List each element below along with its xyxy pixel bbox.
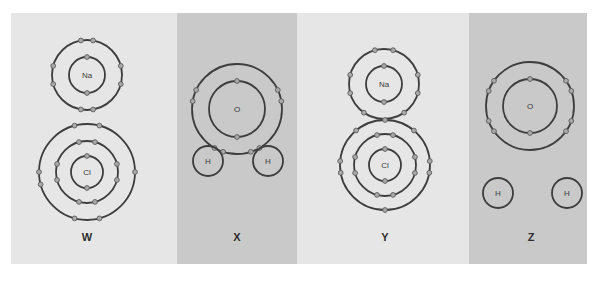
electron: [85, 186, 90, 191]
element-symbol: O: [234, 105, 240, 114]
panel-label-z: Z: [528, 231, 535, 243]
electron: [79, 38, 84, 43]
electron: [118, 64, 123, 69]
electron: [413, 171, 418, 176]
electron: [338, 159, 343, 164]
element-symbol: Cl: [381, 161, 389, 170]
electron: [93, 140, 98, 145]
electron: [373, 48, 378, 53]
panel-label-w: W: [82, 231, 93, 243]
electron: [569, 119, 574, 124]
element-symbol: Na: [379, 80, 390, 89]
electron: [486, 119, 491, 124]
electron: [391, 48, 396, 53]
electron: [72, 123, 77, 128]
electron: [133, 170, 138, 175]
electron: [412, 128, 417, 133]
panel-label-y: Y: [381, 231, 389, 243]
electron: [383, 208, 388, 213]
electron: [55, 178, 60, 183]
electron: [492, 78, 497, 83]
electron: [91, 107, 96, 112]
panel-label-x: X: [233, 231, 241, 243]
electron: [279, 99, 284, 104]
electron: [93, 200, 98, 205]
electron: [353, 171, 358, 176]
electron: [391, 193, 396, 198]
electron: [235, 135, 240, 140]
electron: [564, 129, 569, 134]
electron: [564, 78, 569, 83]
electron: [427, 159, 432, 164]
panel-z-background: [469, 13, 587, 264]
electron: [235, 79, 240, 84]
electron: [249, 149, 254, 154]
electron: [362, 110, 367, 115]
electron: [413, 155, 418, 160]
electron: [77, 140, 82, 145]
element-symbol: H: [205, 157, 211, 166]
electron: [91, 38, 96, 43]
electron: [382, 100, 387, 105]
electron: [51, 64, 56, 69]
electron: [375, 133, 380, 138]
panel-y-background: [297, 13, 469, 264]
electron: [402, 110, 407, 115]
electron: [55, 162, 60, 167]
element-symbol: H: [564, 189, 570, 198]
electron: [97, 216, 102, 221]
electron: [77, 200, 82, 205]
electron: [348, 91, 353, 96]
electron: [415, 73, 420, 78]
electron: [97, 123, 102, 128]
electron: [391, 133, 396, 138]
electron: [569, 89, 574, 94]
electron: [492, 129, 497, 134]
electron: [415, 91, 420, 96]
electron: [79, 107, 84, 112]
electron: [375, 193, 380, 198]
electron: [383, 118, 388, 123]
electron: [190, 99, 195, 104]
electron: [353, 155, 358, 160]
element-symbol: O: [527, 102, 533, 111]
element-symbol: Na: [82, 71, 93, 80]
electron: [72, 216, 77, 221]
electron: [383, 179, 388, 184]
electron: [85, 55, 90, 60]
electron: [528, 131, 533, 136]
electron: [354, 128, 359, 133]
bonding-diagram: NaCl OHH NaCl OHH W X Y Z: [0, 0, 596, 282]
electron: [118, 82, 123, 87]
element-symbol: H: [495, 189, 501, 198]
electron: [85, 154, 90, 159]
electron: [383, 147, 388, 152]
electron: [382, 64, 387, 69]
electron: [528, 77, 533, 82]
element-symbol: Cl: [83, 168, 91, 177]
electron: [51, 82, 56, 87]
electron: [338, 170, 343, 175]
electron: [348, 73, 353, 78]
element-symbol: H: [265, 157, 271, 166]
electron: [115, 162, 120, 167]
electron: [275, 88, 280, 93]
electron: [486, 89, 491, 94]
electron: [37, 170, 42, 175]
electron: [194, 88, 199, 93]
panel-w-background: [11, 13, 177, 264]
electron: [427, 170, 432, 175]
electron: [115, 178, 120, 183]
electron: [38, 182, 43, 187]
electron: [85, 91, 90, 96]
